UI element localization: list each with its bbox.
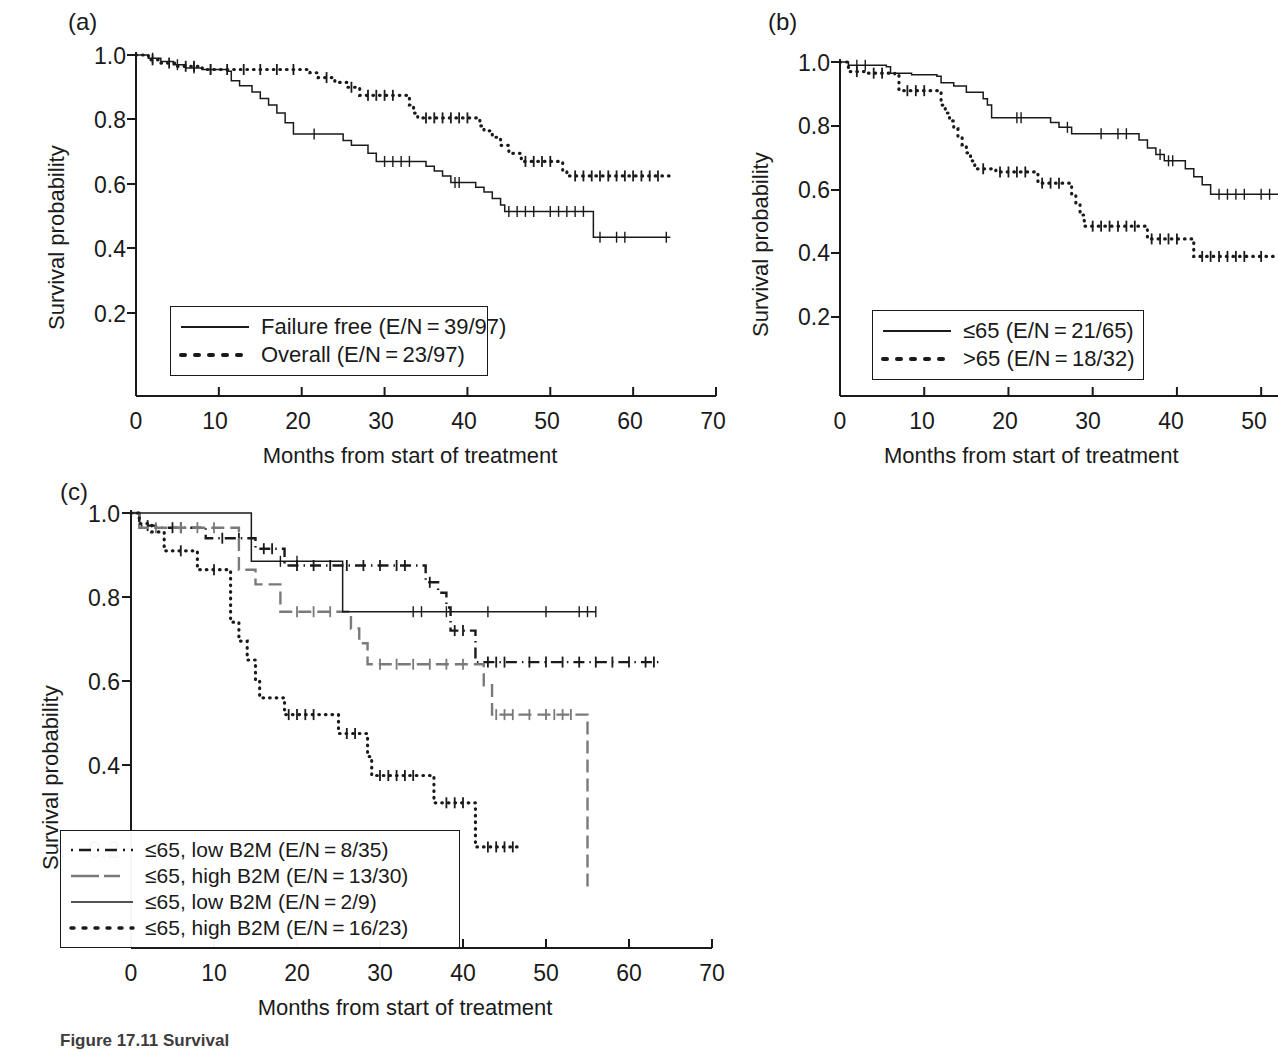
figure-caption: Figure 17.11 Survival bbox=[60, 1031, 229, 1051]
legend-item: ≤65 (E/N = 21/65) bbox=[881, 317, 1133, 345]
legend-item: Failure free (E/N = 39/97) bbox=[179, 313, 477, 341]
legend-swatch-dotted-icon bbox=[69, 921, 135, 935]
legend-label: ≤65, high B2M (E/N = 16/23) bbox=[145, 917, 408, 939]
panel-a: (a) 1.0 0.8 0.6 0.4 0.2 0 10 20 30 40 50… bbox=[0, 0, 720, 470]
legend-label: ≤65 (E/N = 21/65) bbox=[963, 320, 1134, 342]
legend-item: ≤65, high B2M (E/N = 13/30) bbox=[69, 863, 449, 889]
legend-item: Overall (E/N = 23/97) bbox=[179, 341, 477, 369]
panel-a-legend: Failure free (E/N = 39/97) Overall (E/N … bbox=[170, 306, 488, 376]
legend-swatch-dashed-gray-icon bbox=[69, 869, 135, 883]
legend-label: ≤65, low B2M (E/N = 2/9) bbox=[145, 891, 377, 913]
legend-label: >65 (E/N = 18/32) bbox=[963, 348, 1134, 370]
legend-item: ≤65, low B2M (E/N = 8/35) bbox=[69, 837, 449, 863]
panel-c-legend: ≤65, low B2M (E/N = 8/35) ≤65, high B2M … bbox=[60, 830, 460, 948]
legend-swatch-solid-icon bbox=[881, 324, 953, 338]
panel-a-plot bbox=[0, 0, 720, 470]
panel-b-legend: ≤65 (E/N = 21/65) >65 (E/N = 18/32) bbox=[872, 310, 1144, 380]
legend-label: Overall (E/N = 23/97) bbox=[261, 344, 465, 366]
legend-swatch-solid-icon bbox=[179, 320, 251, 334]
legend-swatch-dotted-icon bbox=[179, 348, 251, 362]
legend-swatch-dashdot-icon bbox=[69, 843, 135, 857]
legend-item: ≤65, low B2M (E/N = 2/9) bbox=[69, 889, 449, 915]
panel-b: (b) 1.0 0.8 0.6 0.4 0.2 0 10 20 30 40 50… bbox=[720, 0, 1278, 470]
panel-b-plot bbox=[720, 0, 1278, 470]
legend-label: ≤65, high B2M (E/N = 13/30) bbox=[145, 865, 408, 887]
legend-swatch-dotted-icon bbox=[881, 352, 953, 366]
legend-item: >65 (E/N = 18/32) bbox=[881, 345, 1133, 373]
legend-swatch-solid-icon bbox=[69, 895, 135, 909]
panel-c: (c) 1.0 0.8 0.6 0.4 0.2 0 10 20 30 40 50… bbox=[0, 470, 760, 1030]
legend-label: ≤65, low B2M (E/N = 8/35) bbox=[145, 839, 388, 861]
legend-item: ≤65, high B2M (E/N = 16/23) bbox=[69, 915, 449, 941]
legend-label: Failure free (E/N = 39/97) bbox=[261, 316, 506, 338]
